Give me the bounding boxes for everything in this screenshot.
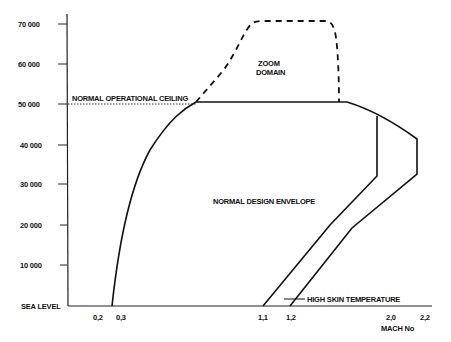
x-tick-label: 1,2 xyxy=(286,313,296,322)
x-tick-label: 1,1 xyxy=(258,313,268,322)
zoom-label-2: DOMAIN xyxy=(256,68,285,77)
skin-temp-label: HIGH SKIN TEMPERATURE xyxy=(307,295,400,304)
y-ticks xyxy=(58,24,67,265)
x-axis-title: MACH No xyxy=(381,324,414,333)
x-tick-label: 2,2 xyxy=(420,313,430,322)
y-tick-label: 60 000 xyxy=(18,60,40,69)
inner-high-speed-boundary xyxy=(263,116,377,306)
y-axis xyxy=(67,14,68,306)
x-tick-label: 0,3 xyxy=(116,313,126,322)
x-tick-label: 2,0 xyxy=(386,313,396,322)
flight-envelope-chart xyxy=(0,0,451,342)
y-tick-label: 50 000 xyxy=(18,100,40,109)
envelope-label: NORMAL DESIGN ENVELOPE xyxy=(213,197,315,206)
y-tick-label: 70 000 xyxy=(18,20,40,29)
low-speed-boundary xyxy=(112,102,196,306)
x-tick-label: 0,2 xyxy=(93,313,103,322)
y-tick-label: 10 000 xyxy=(20,261,42,270)
y-tick-label: 20 000 xyxy=(20,221,42,230)
y-tick-label-sea-level: SEA LEVEL xyxy=(21,302,61,311)
zoom-label-1: ZOOM xyxy=(258,59,280,68)
ceiling-label: NORMAL OPERATIONAL CEILING xyxy=(72,94,188,103)
y-tick-label: 30 000 xyxy=(20,180,42,189)
y-tick-label: 40 000 xyxy=(20,141,42,150)
